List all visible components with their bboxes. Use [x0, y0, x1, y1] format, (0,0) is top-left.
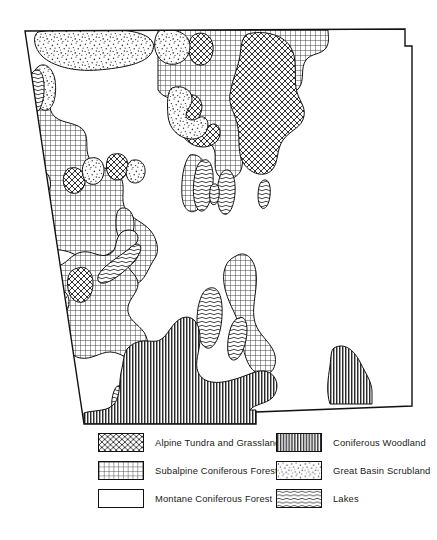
legend-label-subalpine: Subalpine Coniferous Forest: [155, 461, 278, 480]
legend-column-left: Alpine Tundra and Grassland Subalpine Co…: [98, 432, 280, 516]
legend-column-right: Coniferous Woodland Great Basin Scrublan…: [276, 432, 430, 516]
region-great-basin-scrubland: [82, 158, 104, 185]
map-svg: [0, 0, 437, 437]
region-great-basin-scrubland: [126, 160, 145, 183]
map-area: [0, 0, 437, 437]
legend-label-great-basin-scrubland: Great Basin Scrubland: [333, 461, 430, 480]
legend-item-great-basin-scrubland: Great Basin Scrubland: [276, 460, 430, 481]
legend-swatch-subalpine: [98, 461, 144, 480]
region-alpine-tundra: [106, 154, 128, 180]
legend-item-subalpine: Subalpine Coniferous Forest: [98, 460, 280, 481]
legend-label-alpine-tundra: Alpine Tundra and Grassland: [155, 433, 280, 452]
legend: Alpine Tundra and Grassland Subalpine Co…: [0, 432, 437, 540]
region-lakes: [258, 180, 270, 209]
figure-root: Alpine Tundra and Grassland Subalpine Co…: [0, 0, 437, 540]
legend-swatch-montane: [98, 489, 144, 508]
region-lakes: [210, 184, 220, 205]
region-great-basin-scrubland: [155, 30, 190, 65]
legend-swatch-alpine-tundra: [98, 433, 144, 452]
legend-item-lakes: Lakes: [276, 488, 430, 509]
legend-swatch-great-basin-scrubland: [276, 461, 322, 480]
legend-label-coniferous-woodland: Coniferous Woodland: [333, 433, 426, 452]
legend-swatch-lakes: [276, 489, 322, 508]
legend-item-montane: Montane Coniferous Forest: [98, 488, 280, 509]
region-alpine-tundra: [67, 267, 93, 302]
legend-label-lakes: Lakes: [333, 489, 359, 508]
legend-swatch-coniferous-woodland: [276, 433, 322, 452]
region-alpine-tundra: [189, 33, 213, 65]
legend-item-coniferous-woodland: Coniferous Woodland: [276, 432, 430, 453]
legend-label-montane: Montane Coniferous Forest: [155, 489, 272, 508]
legend-item-alpine-tundra: Alpine Tundra and Grassland: [98, 432, 280, 453]
